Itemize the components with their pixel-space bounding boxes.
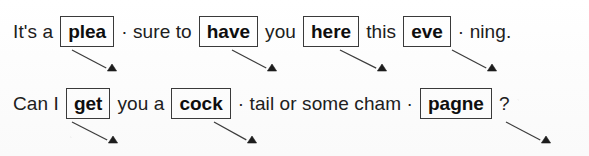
worksheet-page: It's aplea· sure tohaveyouherethiseve· n… xyxy=(0,0,589,156)
arrow-plea-shaft xyxy=(72,50,106,68)
boxed-syllable-here[interactable]: here xyxy=(303,16,359,47)
arrow-have-shaft xyxy=(232,50,266,68)
text-run: you xyxy=(265,22,296,41)
arrow-pagne-head xyxy=(541,136,550,143)
text-run: · ning. xyxy=(458,22,512,41)
arrow-have-head xyxy=(267,64,276,71)
boxed-syllable-have[interactable]: have xyxy=(199,16,258,47)
arrow-pagne xyxy=(506,122,551,143)
arrow-eve-head xyxy=(487,64,496,71)
sentence-line-1: It's aplea· sure tohaveyouherethiseve· n… xyxy=(0,14,589,48)
text-run: you a xyxy=(117,94,164,113)
sentence-line-2: Can Igetyou acock· tail or some cham ·pa… xyxy=(0,86,589,120)
arrow-have xyxy=(232,50,277,71)
text-run: · sure to xyxy=(121,22,192,41)
arrow-cock-shaft xyxy=(214,122,246,140)
arrow-here-shaft xyxy=(340,50,376,68)
arrow-cock xyxy=(214,122,257,143)
arrow-cock-head xyxy=(247,136,256,143)
arrow-here xyxy=(340,50,387,71)
text-run: It's a xyxy=(13,22,53,41)
text-run: ? xyxy=(499,94,510,113)
arrow-pagne-shaft xyxy=(506,122,540,140)
boxed-syllable-plea[interactable]: plea xyxy=(60,16,114,47)
boxed-syllable-pagne[interactable]: pagne xyxy=(420,88,492,119)
boxed-syllable-get[interactable]: get xyxy=(66,88,111,119)
boxed-syllable-eve[interactable]: eve xyxy=(403,16,451,47)
boxed-syllable-cock[interactable]: cock xyxy=(171,88,230,119)
arrow-here-head xyxy=(377,64,386,71)
arrow-eve-shaft xyxy=(452,50,486,68)
text-run: this xyxy=(366,22,396,41)
arrow-plea-head xyxy=(107,64,116,71)
arrow-eve xyxy=(452,50,497,71)
arrow-get-shaft xyxy=(72,122,107,140)
arrow-get-head xyxy=(108,136,117,143)
arrow-get xyxy=(72,122,118,143)
text-run: · tail or some cham · xyxy=(238,94,413,113)
arrow-plea xyxy=(72,50,117,71)
text-run: Can I xyxy=(13,94,59,113)
